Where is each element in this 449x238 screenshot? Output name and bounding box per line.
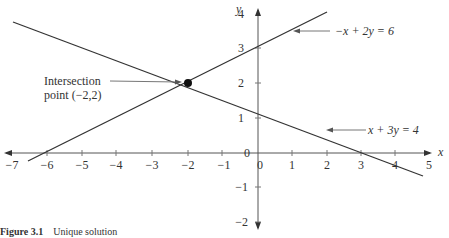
x-tick-label: 0 [250, 158, 270, 173]
y-axis-down-arrow-icon [255, 222, 261, 230]
y-tick-label: 2 [230, 76, 244, 91]
line1-label-arrow-head-icon [293, 29, 300, 34]
figure-caption-text: Unique solution [53, 226, 117, 237]
y-tick-label: 3 [230, 41, 244, 56]
x-axis-left-arrow-icon [4, 150, 12, 156]
x-tick-label: 3 [351, 158, 371, 173]
y-tick-label: −1 [234, 180, 248, 195]
x-tick-label: −5 [72, 158, 92, 173]
x-tick-label: −3 [142, 158, 162, 173]
intersection-point [184, 79, 192, 87]
x-tick-label: 4 [385, 158, 405, 173]
intersection-label-line1: Intersection [44, 75, 101, 88]
line2-label-arrow-head-icon [326, 128, 333, 133]
x-tick-label: −2 [178, 158, 198, 173]
figure-caption-label: Figure 3.1 [0, 226, 43, 237]
x-tick-label: 5 [419, 158, 439, 173]
y-tick-label: −2 [234, 215, 248, 230]
x-tick-label: 2 [317, 158, 337, 173]
line1-equation-label: −x + 2y = 6 [335, 25, 394, 38]
y-tick-label: 0 [236, 146, 250, 161]
x-axis-right-arrow-icon [424, 150, 432, 156]
intersection-label-line2: point (−2,2) [44, 89, 101, 102]
x-tick-label: −7 [2, 158, 22, 173]
line2-equation-label: x + 3y = 4 [368, 124, 419, 137]
x-tick-label: 1 [282, 158, 302, 173]
x-tick-label: −6 [37, 158, 57, 173]
x-tick-label: −1 [214, 158, 234, 173]
y-tick-label: 1 [230, 111, 244, 126]
y-tick-label: 4 [230, 7, 244, 22]
intersection-arrow [110, 81, 178, 82]
figure-caption: Figure 3.1Unique solution [0, 226, 117, 237]
y-axis-up-arrow-icon [255, 8, 261, 16]
x-tick-label: −4 [106, 158, 126, 173]
